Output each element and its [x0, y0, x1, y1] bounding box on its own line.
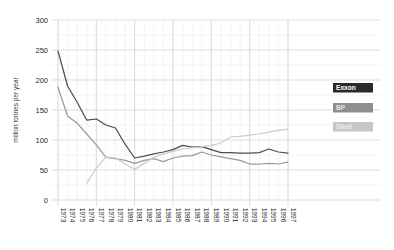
axis-layer: 3002502001501005001973197419751976197719…	[12, 16, 297, 223]
x-axis-tick-label: 1997	[290, 208, 297, 223]
legend-item-shell[interactable]: Shell	[333, 122, 373, 132]
x-axis-tick-label: 1977	[98, 208, 105, 223]
y-axis-tick-label: 200	[35, 76, 48, 85]
grid-layer	[52, 20, 380, 206]
legend-label-shell: Shell	[336, 123, 352, 130]
x-axis-tick-label: 1981	[136, 208, 143, 223]
legend: ExxonBPShell	[333, 83, 373, 132]
chart-container: 3002502001501005001973197419751976197719…	[0, 0, 394, 250]
line-chart: 3002502001501005001973197419751976197719…	[0, 0, 394, 250]
x-axis-tick-label: 1992	[242, 208, 249, 223]
x-axis-tick-label: 1988	[203, 208, 210, 223]
y-axis-tick-label: 150	[35, 106, 48, 115]
y-axis-tick-label: 300	[35, 16, 48, 25]
x-axis-tick-label: 1983	[155, 208, 162, 223]
x-axis-tick-label: 1978	[108, 208, 115, 223]
x-axis-tick-label: 1979	[117, 208, 124, 223]
x-axis-tick-label: 1980	[127, 208, 134, 223]
legend-label-bp: BP	[336, 104, 346, 111]
x-axis-tick-label: 1976	[88, 208, 95, 223]
y-axis-tick-label: 0	[44, 196, 48, 205]
y-axis-title: million tonnes per year	[12, 76, 20, 142]
y-axis-tick-label: 50	[40, 166, 48, 175]
x-axis-tick-label: 1974	[69, 208, 76, 223]
y-axis-tick-label: 100	[35, 136, 48, 145]
x-axis-tick-label: 1995	[270, 208, 277, 223]
legend-item-bp[interactable]: BP	[333, 103, 373, 113]
x-axis-tick-label: 1984	[165, 208, 172, 223]
x-axis-tick-label: 1996	[280, 208, 287, 223]
x-axis-tick-label: 1989	[213, 208, 220, 223]
x-axis-tick-label: 1986	[184, 208, 191, 223]
legend-label-exxon: Exxon	[336, 84, 356, 91]
x-axis-tick-label: 1993	[251, 208, 258, 223]
x-axis-tick-label: 1987	[194, 208, 201, 223]
x-axis-tick-label: 1985	[175, 208, 182, 223]
x-axis-tick-label: 1990	[223, 208, 230, 223]
x-axis-tick-label: 1982	[146, 208, 153, 223]
x-axis-tick-label: 1994	[261, 208, 268, 223]
x-axis-tick-label: 1973	[60, 208, 67, 223]
y-axis-tick-label: 250	[35, 46, 48, 55]
x-axis-tick-label: 1991	[232, 208, 239, 223]
legend-item-exxon[interactable]: Exxon	[333, 83, 373, 93]
x-axis-tick-label: 1975	[79, 208, 86, 223]
